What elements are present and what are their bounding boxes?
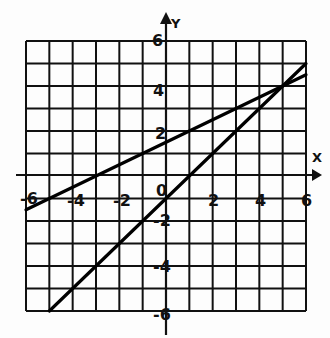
x-axis-arrow-icon — [312, 169, 322, 181]
x-tick-label: -2 — [113, 191, 131, 210]
x-axis-label: X — [312, 150, 322, 165]
x-tick-label: 2 — [208, 191, 219, 210]
y-tick-label: -6 — [153, 305, 171, 324]
x-tick-label: -4 — [67, 191, 85, 210]
y-tick-label: 2 — [155, 124, 166, 143]
y-tick-label: -2 — [153, 211, 171, 230]
x-tick-label: 0 — [156, 181, 167, 200]
y-tick-label: 6 — [152, 31, 163, 50]
y-tick-label: 4 — [153, 81, 164, 100]
y-tick-label: -4 — [153, 257, 171, 276]
y-axis-label: Y — [170, 16, 181, 31]
x-tick-label: 4 — [255, 191, 266, 210]
coordinate-plane: X Y -6 -4 -2 0 2 4 6 6 4 2 -2 -4 -6 — [0, 0, 330, 338]
line-2 — [49, 64, 306, 312]
x-tick-label: 6 — [301, 191, 312, 210]
x-tick-label: -6 — [20, 189, 38, 208]
